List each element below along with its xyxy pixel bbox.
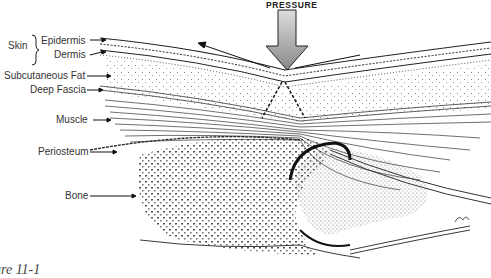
figure-caption: ure 11-1 <box>0 262 40 278</box>
label-deep-fascia: Deep Fascia <box>30 84 86 96</box>
pressure-arrow-icon <box>266 10 308 70</box>
label-epidermis: Epidermis <box>41 35 85 47</box>
joint-bone <box>295 148 428 235</box>
artist-signature <box>455 217 469 222</box>
label-subcutaneous-fat: Subcutaneous Fat <box>4 70 85 82</box>
pressure-title: PRESSURE <box>266 0 318 10</box>
label-periosteum: Periosteum <box>38 146 89 158</box>
label-skin: Skin <box>8 40 27 52</box>
skin-brace <box>32 35 39 65</box>
label-bone: Bone <box>65 190 88 202</box>
label-dermis: Dermis <box>54 49 86 61</box>
label-muscle: Muscle <box>56 114 88 126</box>
